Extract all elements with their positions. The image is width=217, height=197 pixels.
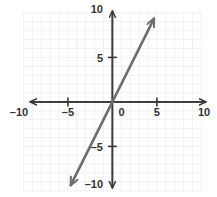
graph-canvas: –10 –5 0 5 10 10 5 –5 –10 bbox=[0, 0, 217, 197]
x-axis-label-neg-5: –5 bbox=[62, 106, 74, 118]
y-axis-label-pos-5: 5 bbox=[97, 52, 103, 64]
y-axis-label-pos-10: 10 bbox=[91, 3, 103, 15]
x-axis-label-pos-10: 10 bbox=[198, 106, 210, 118]
coordinate-plane-graph: –10 –5 0 5 10 10 5 –5 –10 bbox=[0, 0, 217, 197]
x-axis-label-pos-5: 5 bbox=[154, 106, 160, 118]
y-axis-label-neg-5: –5 bbox=[91, 141, 103, 153]
x-axis-label-neg-10: –10 bbox=[10, 106, 28, 118]
y-axis-label-neg-10: –10 bbox=[85, 178, 103, 190]
origin-label: 0 bbox=[118, 106, 124, 118]
